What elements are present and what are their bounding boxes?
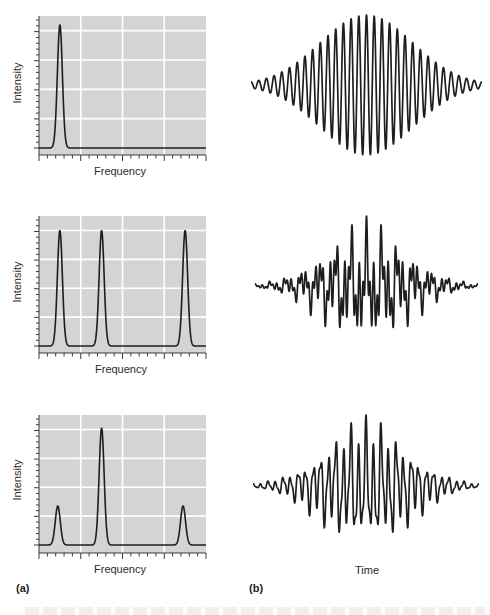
waveform-trace: [251, 15, 482, 155]
waveform-panel-3: [253, 415, 479, 532]
fourier-figure: [0, 0, 490, 615]
panel-label-a: (a): [16, 582, 29, 594]
spectrum-3-xlabel: Frequency: [94, 563, 146, 575]
spectrum-2-xlabel: Frequency: [95, 363, 147, 375]
panel-label-b: (b): [249, 582, 263, 594]
time-xlabel: Time: [355, 564, 379, 576]
waveform-panel-2: [255, 216, 478, 327]
spectrum-2-ylabel: Intensity: [11, 262, 23, 303]
page-bleed-through: [25, 607, 485, 615]
frequency-spectra-column: [34, 16, 206, 559]
waveform-trace: [253, 415, 479, 532]
waveform-panel-1: [251, 15, 482, 155]
spectrum-3-ylabel: Intensity: [11, 460, 23, 501]
spectrum-1-xlabel: Frequency: [94, 165, 146, 177]
spectrum-1-ylabel: Intensity: [11, 63, 23, 104]
time-domain-column: [251, 15, 482, 532]
spectrum-panel-2: [34, 216, 206, 359]
spectrum-panel-3: [34, 415, 206, 559]
waveform-trace: [255, 216, 478, 327]
spectrum-panel-1: [34, 16, 206, 161]
